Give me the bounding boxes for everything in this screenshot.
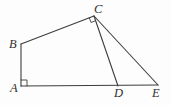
geometry-figure: ABCDE [0,0,171,105]
segment-CD [94,16,118,86]
point-label-E: E [151,86,160,100]
point-label-B: B [9,37,17,51]
segment-AE [21,85,158,86]
right-angle-mark-at-A [21,80,27,86]
segment-CE [94,16,158,85]
point-label-D: D [113,86,123,100]
geometry-diagram-canvas: ABCDE [0,0,171,105]
segment-BC [21,16,94,44]
point-label-A: A [9,81,18,95]
point-label-C: C [94,2,103,16]
